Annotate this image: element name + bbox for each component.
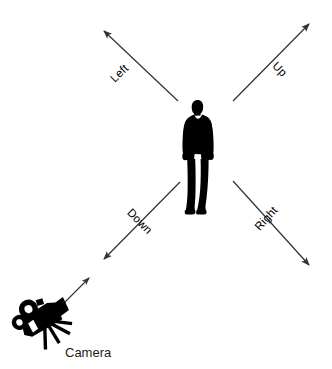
axis-arrow-right: Right xyxy=(233,181,309,265)
arrow-line-left xyxy=(104,31,178,101)
axis-label-down: Down xyxy=(125,206,155,236)
axis-arrow-down: Down xyxy=(104,182,180,259)
axis-label-up: Up xyxy=(270,60,289,79)
axis-label-left: Left xyxy=(108,61,131,84)
axis-arrow-up: Up xyxy=(233,24,309,101)
camera-label: Camera xyxy=(65,345,112,360)
arrow-line-right xyxy=(233,181,309,265)
diagram-canvas: Left Up Down Right xyxy=(0,0,332,369)
arrow-line-up xyxy=(233,24,309,101)
axes-diagram: Left Up Down Right xyxy=(0,0,332,369)
axis-arrow-left: Left xyxy=(104,31,178,101)
person-silhouette xyxy=(182,100,214,215)
